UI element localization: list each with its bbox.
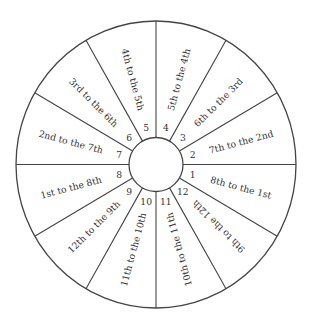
sector-label: 8th to the 1st — [209, 174, 273, 201]
sector-number: 8 — [116, 169, 122, 180]
sector-label: 9th to the 12th — [190, 198, 247, 255]
inner-circle — [129, 138, 183, 192]
sector-label: 1st to the 8th — [39, 174, 103, 201]
sector-number: 5 — [143, 122, 149, 133]
sector-number: 10 — [140, 196, 152, 207]
sector-label: 7th to the 2nd — [208, 128, 275, 156]
sector-number: 6 — [126, 132, 132, 143]
house-wheel-diagram: 8th to the 1st7th to the 2nd6th to the 3… — [0, 0, 309, 326]
sector-number: 4 — [163, 122, 169, 133]
sector-label: 12th to the 9th — [65, 198, 122, 255]
sector-number: 3 — [180, 132, 186, 143]
sector-label: 5th to the 4th — [165, 47, 192, 112]
sector-number: 1 — [190, 169, 196, 180]
sector-number: 2 — [190, 149, 196, 160]
sector-label: 6th to the 3rd — [191, 75, 245, 129]
sector-number: 11 — [160, 196, 172, 207]
sector-number: 12 — [177, 186, 189, 197]
sector-number: 7 — [116, 149, 122, 160]
sector-number: 9 — [126, 186, 132, 197]
sector-label: 3rd to the 6th — [67, 76, 121, 130]
sector-label: 2nd to the 7th — [38, 128, 105, 156]
sector-label: 4th to the 5th — [120, 47, 147, 112]
